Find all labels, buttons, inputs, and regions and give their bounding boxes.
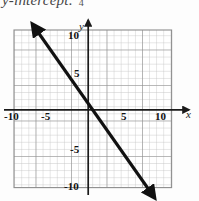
- x-tick-label--5: -5: [41, 110, 50, 122]
- y-tick-label--10: -10: [64, 180, 79, 192]
- y-tick-label-5: 5: [74, 67, 80, 79]
- y-tick-label--5: -5: [70, 143, 79, 155]
- x-tick-label-5: 5: [121, 110, 127, 122]
- coordinate-plane: x y -10 -5 5 10 10 5 -5 -10: [0, 14, 199, 201]
- y-axis-label: y: [79, 20, 84, 32]
- plot-svg: [0, 14, 199, 201]
- figure-root: y-intercept:4 x y -10 -5 5 10 10 5 -5 -1…: [0, 0, 199, 201]
- heading-label: y-intercept:: [2, 0, 74, 8]
- heading-answer: 4: [74, 0, 84, 8]
- page-heading: y-intercept:4: [2, 0, 84, 9]
- y-tick-label-10: 10: [68, 29, 79, 41]
- x-tick-label-10: 10: [155, 110, 166, 122]
- x-axis-label: x: [186, 108, 191, 120]
- x-tick-label--10: -10: [4, 110, 19, 122]
